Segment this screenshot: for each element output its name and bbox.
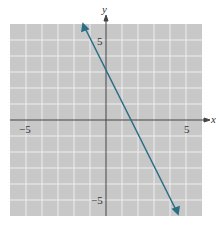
- x-axis-arrow-icon: [204, 118, 210, 122]
- x-axis-label: x: [210, 113, 216, 125]
- y-tick-neg5: −5: [91, 194, 103, 206]
- x-tick-neg5: −5: [19, 123, 31, 135]
- y-axis-label: y: [101, 3, 107, 15]
- x-tick-5: 5: [184, 123, 190, 135]
- y-axis-arrow-icon: [104, 15, 108, 21]
- y-tick-5: 5: [97, 35, 103, 47]
- coordinate-plane: x y −5 5 5 −5: [0, 0, 219, 226]
